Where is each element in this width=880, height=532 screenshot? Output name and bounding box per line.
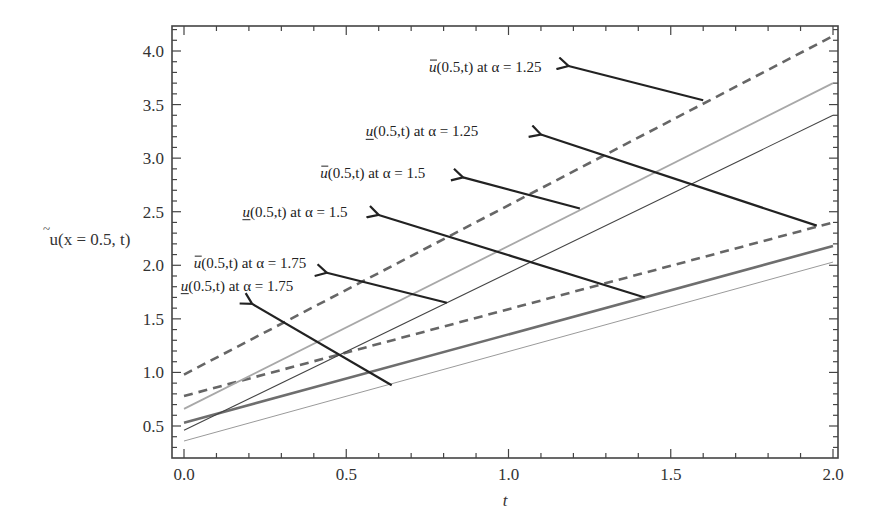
y-tick-label: 3.0: [143, 149, 164, 168]
y-tick-label: 4.0: [143, 42, 164, 61]
y-axis-title: u(x = 0.5, t): [50, 230, 131, 249]
y-tick-label: 3.5: [143, 96, 164, 115]
y-axis: 0.51.01.52.02.53.03.54.0: [143, 30, 838, 448]
x-tick-label: 0.0: [173, 465, 194, 484]
tilde-glyph: ~: [43, 221, 50, 236]
annotation-label: u(0.5,t) at α = 1.75: [194, 255, 307, 272]
plot-frame: [172, 26, 838, 458]
plot-border: [172, 26, 838, 458]
series-lines: [184, 36, 833, 441]
y-tick-label: 0.5: [143, 417, 164, 436]
chart-canvas: 0.00.51.01.52.0 0.51.01.52.02.53.03.54.0…: [0, 0, 880, 532]
annotation-label: u(0.5,t) at α = 1.5: [320, 165, 425, 182]
y-tick-label: 2.5: [143, 203, 164, 222]
x-tick-label: 1.0: [498, 465, 519, 484]
annotation-label: u(0.5,t) at α = 1.25: [366, 123, 479, 140]
annotation-arrow: [327, 273, 447, 303]
y-tick-label: 1.5: [143, 310, 164, 329]
annotation-label: u(0.5,t) at α = 1.75: [181, 278, 294, 295]
x-tick-label: 2.0: [822, 465, 843, 484]
y-tick-label: 2.0: [143, 256, 164, 275]
annotation-arrow: [541, 135, 817, 226]
x-axis-title: t: [503, 491, 509, 510]
annotation-arrow: [463, 177, 580, 208]
annotation-arrow: [379, 215, 645, 297]
x-tick-label: 1.5: [660, 465, 681, 484]
annotation-arrow: [569, 66, 704, 100]
annotation-label: u(0.5,t) at α = 1.25: [429, 59, 542, 76]
y-tick-label: 1.0: [143, 363, 164, 382]
annotation-label: u(0.5,t) at α = 1.5: [242, 204, 347, 221]
x-tick-label: 0.5: [336, 465, 357, 484]
series-line: [184, 222, 833, 396]
series-line: [184, 83, 833, 409]
